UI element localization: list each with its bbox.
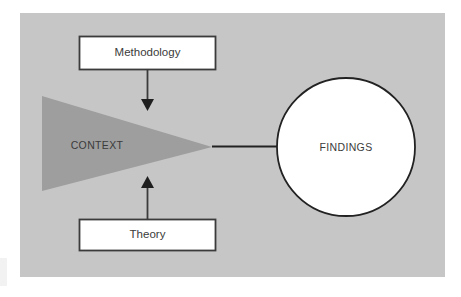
context-label: CONTEXT (42, 137, 152, 153)
methodology-label: Methodology (79, 43, 216, 61)
theory-label: Theory (79, 225, 216, 243)
theory-arrow-head-icon (141, 176, 154, 188)
methodology-arrow-head-icon (141, 99, 154, 111)
findings-label: FINDINGS (287, 139, 405, 155)
diagram-canvas: Methodology Theory CONTEXT FINDINGS (0, 0, 461, 297)
